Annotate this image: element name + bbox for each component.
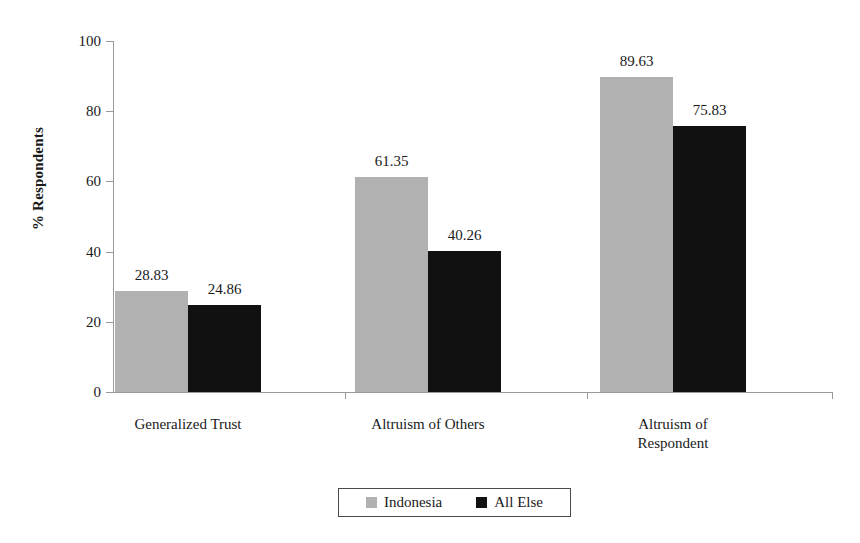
y-axis-tick bbox=[106, 41, 113, 42]
y-axis-tick-label: 40 bbox=[86, 243, 101, 260]
y-axis-tick bbox=[106, 392, 113, 393]
bar-value-label: 75.83 bbox=[693, 102, 727, 119]
bar-value-label: 40.26 bbox=[448, 227, 482, 244]
bar-value-label: 24.86 bbox=[208, 281, 242, 298]
plot-area: 02040608010028.8324.8661.3540.2689.6375.… bbox=[113, 41, 832, 392]
y-axis-tick-label: 80 bbox=[86, 103, 101, 120]
x-axis-tick bbox=[832, 392, 833, 399]
y-axis-tick bbox=[106, 181, 113, 182]
y-axis-tick-label: 0 bbox=[94, 384, 102, 401]
x-axis-tick bbox=[587, 392, 588, 399]
y-axis-title: % Respondents bbox=[30, 99, 47, 259]
x-axis-line bbox=[113, 392, 832, 393]
bar-value-label: 61.35 bbox=[375, 153, 409, 170]
legend-entry-indonesia: Indonesia bbox=[366, 494, 442, 511]
y-axis-tick-label: 20 bbox=[86, 313, 101, 330]
y-axis-tick bbox=[106, 322, 113, 323]
x-axis-category-label: Altruism of Others bbox=[371, 415, 484, 434]
y-axis-tick bbox=[106, 111, 113, 112]
bar-value-label: 28.83 bbox=[135, 267, 169, 284]
light-gray-swatch-icon bbox=[366, 497, 377, 508]
bar bbox=[428, 251, 501, 392]
y-axis-tick bbox=[106, 252, 113, 253]
bar bbox=[188, 305, 261, 392]
bar bbox=[355, 177, 428, 392]
y-axis-tick-label: 60 bbox=[86, 173, 101, 190]
x-axis-category-label: Generalized Trust bbox=[134, 415, 241, 434]
bar bbox=[600, 77, 673, 392]
bar-value-label: 89.63 bbox=[620, 53, 654, 70]
y-axis-tick-label: 100 bbox=[79, 33, 102, 50]
legend-entry-all-else: All Else bbox=[476, 494, 543, 511]
legend-label-indonesia: Indonesia bbox=[384, 494, 442, 511]
legend: Indonesia All Else bbox=[338, 488, 571, 517]
legend-label-all-else: All Else bbox=[494, 494, 543, 511]
bar bbox=[673, 126, 746, 392]
black-swatch-icon bbox=[476, 497, 487, 508]
x-axis-tick bbox=[345, 392, 346, 399]
bar-chart: % Respondents 02040608010028.8324.8661.3… bbox=[0, 0, 860, 543]
bar bbox=[115, 291, 188, 392]
x-axis-category-label: Altruism of Respondent bbox=[638, 415, 709, 453]
